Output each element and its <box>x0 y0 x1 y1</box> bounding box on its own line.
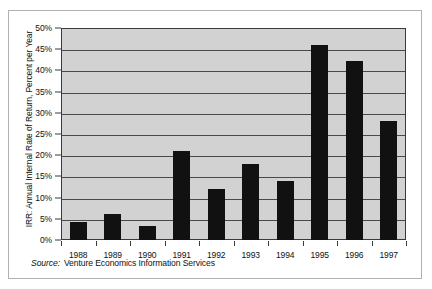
x-tick-mark <box>165 241 166 246</box>
x-tick-mark <box>130 241 131 246</box>
source-label: Source: <box>31 258 60 268</box>
gridline <box>62 220 405 221</box>
y-tick-label: 30% <box>35 108 52 118</box>
y-tick-label: 10% <box>35 193 52 203</box>
y-tick-label: 45% <box>35 44 52 54</box>
y-tick-label: 40% <box>35 65 52 75</box>
x-tick-label: 1993 <box>234 241 269 263</box>
x-tick-mark <box>303 241 304 246</box>
source-note: Source:Venture Economics Information Ser… <box>31 258 215 268</box>
y-axis-title: IRR: Annual Internal Rate of Return, Per… <box>24 20 34 238</box>
y-tick-label: 20% <box>35 150 52 160</box>
y-axis: 0%5%10%15%20%25%30%35%40%45%50% <box>9 11 61 257</box>
figure-frame: 0%5%10%15%20%25%30%35%40%45%50% IRR: Ann… <box>8 10 422 279</box>
gridline <box>62 50 405 51</box>
x-tick-label: 1997 <box>372 241 407 263</box>
x-tick-mark <box>337 241 338 246</box>
x-tick-mark <box>406 241 407 246</box>
y-tick-label: 5% <box>40 214 52 224</box>
gridline <box>62 199 405 200</box>
y-tick-label: 25% <box>35 129 52 139</box>
y-tick-mark <box>55 112 61 113</box>
x-tick-mark <box>199 241 200 246</box>
y-tick-mark <box>55 91 61 92</box>
y-tick-label: 0% <box>40 235 52 245</box>
y-tick-label: 15% <box>35 171 52 181</box>
x-tick-mark <box>96 241 97 246</box>
gridline <box>62 93 405 94</box>
y-tick-mark <box>55 49 61 50</box>
y-tick-label: 50% <box>35 23 52 33</box>
bar-chart: 0%5%10%15%20%25%30%35%40%45%50% IRR: Ann… <box>9 11 423 280</box>
gridline <box>62 177 405 178</box>
y-tick-mark <box>55 155 61 156</box>
source-text: Venture Economics Information Services <box>60 258 215 268</box>
y-tick-mark <box>55 218 61 219</box>
gridline <box>62 71 405 72</box>
y-tick-label: 35% <box>35 87 52 97</box>
x-tick-label: 1995 <box>303 241 338 263</box>
y-tick-mark <box>55 197 61 198</box>
x-tick-mark <box>372 241 373 246</box>
plot-area <box>61 28 406 240</box>
x-tick-label: 1994 <box>268 241 303 263</box>
x-tick-mark <box>268 241 269 246</box>
x-tick-label: 1996 <box>337 241 372 263</box>
y-tick-mark <box>55 70 61 71</box>
y-tick-mark <box>55 28 61 29</box>
gridline <box>62 114 405 115</box>
x-tick-mark <box>234 241 235 246</box>
gridline <box>62 156 405 157</box>
gridline <box>62 135 405 136</box>
y-tick-mark <box>55 134 61 135</box>
y-tick-mark <box>55 176 61 177</box>
x-tick-mark <box>61 241 62 246</box>
